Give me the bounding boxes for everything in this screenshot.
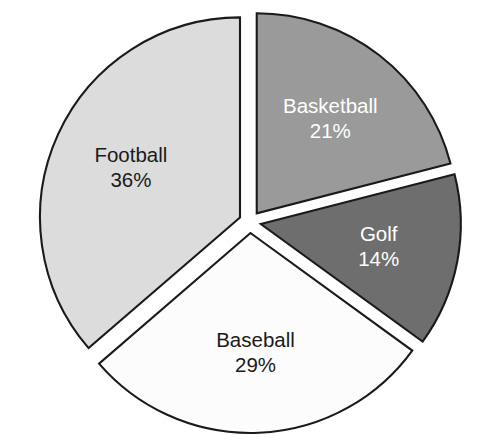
pie-label-value: 36%: [110, 168, 151, 191]
pie-label-name: Football: [94, 143, 167, 166]
pie-label-name: Baseball: [216, 328, 295, 351]
pie-chart: Football36%Basketball21%Golf14%Baseball2…: [0, 0, 485, 446]
pie-chart-canvas: Football36%Basketball21%Golf14%Baseball2…: [0, 0, 485, 446]
pie-label-value: 14%: [358, 247, 399, 270]
pie-label-value: 21%: [310, 119, 351, 142]
pie-label-value: 29%: [235, 353, 276, 376]
pie-label-name: Golf: [360, 222, 398, 245]
pie-label-name: Basketball: [283, 94, 378, 117]
